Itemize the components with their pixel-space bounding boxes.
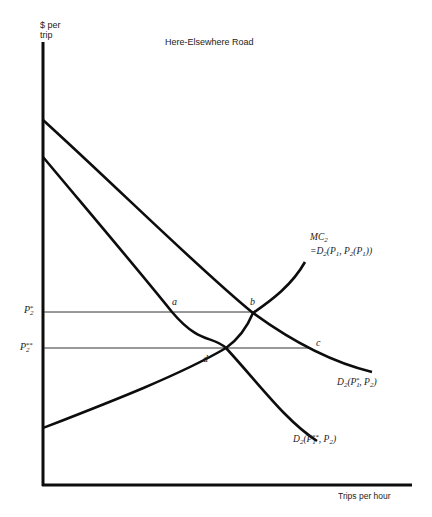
dl-open: (P xyxy=(303,434,312,444)
mc-base: MC xyxy=(310,232,324,242)
dh-mid: , P xyxy=(359,377,370,387)
mc-eq-end: )) xyxy=(366,246,372,256)
price-label-p2-double-star: P2** xyxy=(20,340,33,355)
dh-close: ) xyxy=(373,377,376,387)
chart-title: Here-Elsewhere Road xyxy=(165,37,254,47)
x-axis-label: Trips per hour xyxy=(338,491,391,501)
mc-curve-label: MC2 =D2(P1, P2(P1)) xyxy=(310,232,372,260)
y-axis-label-line1: $ per xyxy=(40,20,61,30)
mc-eq-prefix: =D xyxy=(310,246,323,256)
dl-p-sup: ** xyxy=(312,433,319,441)
mc-label-line1: MC2 xyxy=(310,232,372,246)
dh-base: D xyxy=(337,377,344,387)
y-axis-label-line2: trip xyxy=(40,30,61,40)
mc-eq-b: , P xyxy=(339,246,350,256)
price-label-sup: * xyxy=(30,304,34,312)
mc-label-line2: =D2(P1, P2(P1)) xyxy=(310,246,372,260)
point-label-c: c xyxy=(316,338,320,348)
point-label-d: d xyxy=(203,354,208,364)
price-label-sup: ** xyxy=(26,341,33,349)
demand-low-label: D2(P1**, P2) xyxy=(293,432,336,447)
point-label-b: b xyxy=(250,297,255,307)
point-label-a: a xyxy=(172,297,177,307)
demand-curve-p1-double-star xyxy=(43,157,317,441)
price-label-p2-star: P2* xyxy=(24,303,33,318)
demand-high-label: D2(P1*, P2) xyxy=(337,375,377,390)
mc-eq-a: (P xyxy=(327,246,336,256)
marginal-cost-curve xyxy=(43,262,305,428)
dl-mid: , P xyxy=(319,434,330,444)
y-axis-label: $ per trip xyxy=(40,20,61,40)
mc-eq-c: (P xyxy=(353,246,362,256)
dl-close: ) xyxy=(333,434,336,444)
mc-sub: 2 xyxy=(324,236,328,244)
dh-open: (P xyxy=(347,377,356,387)
dl-base: D xyxy=(293,434,300,444)
